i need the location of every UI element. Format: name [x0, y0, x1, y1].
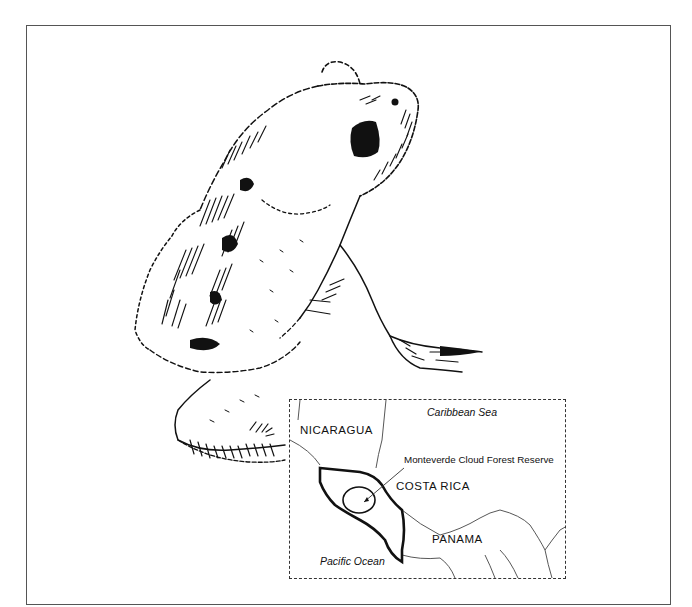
eye-icon — [392, 99, 399, 106]
reserve-outline — [343, 487, 375, 513]
costa-rica-outline — [320, 468, 404, 562]
map-inset: NICARAGUA Caribbean Sea Monteverde Cloud… — [289, 399, 566, 579]
label-pacific-ocean: Pacific Ocean — [320, 555, 385, 567]
label-nicaragua: NICARAGUA — [300, 424, 373, 436]
label-costa-rica: COSTA RICA — [396, 480, 470, 492]
label-caribbean-sea: Caribbean Sea — [427, 406, 497, 418]
label-reserve: Monteverde Cloud Forest Reserve — [404, 454, 554, 465]
label-panama: PANAMA — [432, 533, 483, 545]
